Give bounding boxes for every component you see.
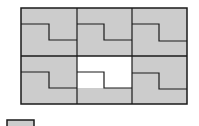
puzzle-diagram bbox=[0, 0, 199, 126]
answer-option-box[interactable] bbox=[7, 120, 34, 126]
